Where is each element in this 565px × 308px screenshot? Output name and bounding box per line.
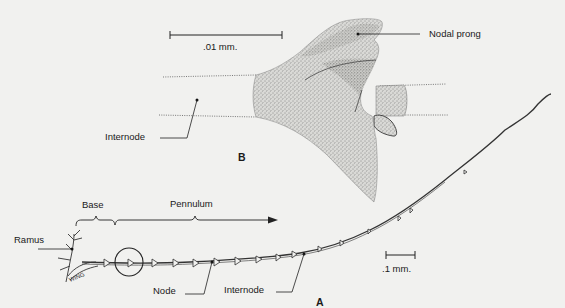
node-leader xyxy=(185,261,214,295)
scale-bar-b xyxy=(170,31,282,39)
node-label: Node xyxy=(153,286,176,296)
nodal-prong-label: Nodal prong xyxy=(429,29,481,39)
base-label: Base xyxy=(82,200,104,210)
base-pennulum-brace xyxy=(76,216,278,226)
ramus-leader xyxy=(38,248,74,251)
ramus-label: Ramus xyxy=(14,235,44,245)
scale-bar-b-label: .01 mm. xyxy=(203,42,237,52)
filament-nodes xyxy=(104,170,467,267)
internode-b-leader xyxy=(160,99,199,139)
ramus-illustration: WING xyxy=(58,230,98,283)
scale-bar-a xyxy=(386,251,415,259)
nodal-body-illustration xyxy=(253,19,407,202)
internode-b-label: Internode xyxy=(105,132,145,142)
internode-a-label: Internode xyxy=(224,285,264,295)
scale-bar-a-label: .1 mm. xyxy=(382,264,411,274)
pennulum-label: Pennulum xyxy=(170,199,213,209)
internode-a-leader xyxy=(276,253,306,293)
panel-b-label: B xyxy=(238,152,246,163)
panel-a-label: A xyxy=(316,297,324,308)
